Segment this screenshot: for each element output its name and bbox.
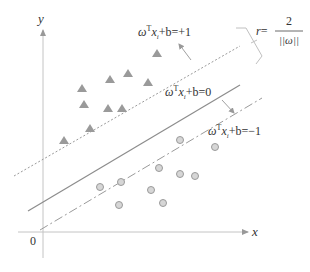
triangle-marker (123, 69, 133, 77)
triangle-marker (103, 104, 113, 112)
omega-symbol: ω (165, 85, 173, 99)
circle-marker (97, 184, 104, 191)
upper-margin-line (14, 46, 240, 176)
positive-class-points (59, 49, 162, 144)
triangle-marker (105, 75, 115, 83)
middle-hyperplane-label: ωTxi+b=0 (165, 84, 211, 101)
equation-rest: +b=−1 (229, 124, 261, 138)
lower-hyperplane-label: ωTxi+b=−1 (208, 123, 261, 140)
triangle-marker (85, 124, 95, 132)
triangle-marker (59, 136, 69, 144)
circle-marker (177, 171, 184, 178)
decision-boundary-line (28, 85, 240, 211)
origin-label: 0 (30, 234, 36, 248)
margin-numerator: 2 (286, 14, 292, 28)
circle-marker (148, 187, 155, 194)
circle-marker (156, 165, 163, 172)
margin-formula: r= 2 ||ω|| (256, 14, 303, 46)
margin-lhs: r= (256, 24, 268, 38)
omega-symbol: ω (138, 25, 146, 39)
triangle-marker (77, 84, 87, 92)
lower-normal-arrow (222, 100, 234, 113)
omega-symbol: ω (208, 124, 216, 138)
hyperplanes (14, 46, 262, 230)
triangle-marker (152, 49, 162, 57)
equation-rest: +b=+1 (159, 25, 191, 39)
circle-marker (192, 173, 199, 180)
upper-normal-arrow (179, 44, 191, 60)
lower-margin-line (40, 98, 262, 230)
negative-class-points (97, 137, 219, 209)
triangle-marker (117, 104, 127, 112)
x-axis-label: x (251, 224, 258, 239)
upper-hyperplane-label: ωTxi+b=+1 (138, 24, 191, 41)
circle-marker (160, 200, 167, 207)
triangle-marker (79, 100, 89, 108)
circle-marker (118, 179, 125, 186)
y-axis-label: y (36, 11, 44, 26)
circle-marker (116, 202, 123, 209)
circle-marker (212, 144, 219, 151)
triangle-marker (143, 78, 153, 86)
svm-margin-diagram: y x 0 ωTxi+b= (0, 0, 310, 272)
circle-marker (177, 137, 184, 144)
margin-denominator: ||ω|| (279, 34, 299, 46)
equation-rest: +b=0 (186, 85, 212, 99)
